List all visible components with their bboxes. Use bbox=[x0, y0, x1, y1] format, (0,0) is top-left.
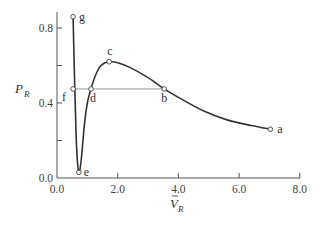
point-f-marker bbox=[71, 87, 76, 92]
y-ticks: 0.00.40.8 bbox=[39, 22, 62, 184]
point-f-label: f bbox=[62, 90, 66, 104]
x-axis-label-sub: R bbox=[177, 204, 184, 214]
y-axis-label: P R bbox=[14, 81, 30, 99]
point-a-marker bbox=[268, 127, 273, 132]
point-e-label: e bbox=[84, 165, 89, 179]
x-tick-label: 2.0 bbox=[111, 183, 126, 195]
x-tick-label: 0.0 bbox=[50, 183, 65, 195]
point-c-label: c bbox=[107, 44, 112, 58]
point-b-label: b bbox=[161, 91, 167, 105]
point-c-marker bbox=[107, 59, 112, 64]
x-tick-label: 4.0 bbox=[171, 183, 186, 195]
y-tick-label: 0.0 bbox=[39, 172, 54, 184]
point-a-label: a bbox=[277, 122, 283, 136]
point-e-marker bbox=[77, 170, 82, 175]
point-g-marker bbox=[71, 14, 76, 19]
point-g-label: g bbox=[79, 10, 85, 24]
x-axis-label: V R bbox=[170, 196, 184, 214]
y-tick-label: 0.4 bbox=[39, 97, 54, 109]
point-d-label: d bbox=[90, 91, 96, 105]
isotherm-curve bbox=[73, 17, 270, 173]
y-axis-label-main: P bbox=[14, 81, 23, 96]
x-tick-label: 8.0 bbox=[293, 183, 308, 195]
y-axis-label-sub: R bbox=[23, 89, 30, 99]
y-tick-label: 0.8 bbox=[39, 22, 54, 34]
pv-isotherm-chart: 0.02.04.06.08.0 0.00.40.8 abcdefg P R V … bbox=[0, 0, 325, 225]
x-tick-label: 6.0 bbox=[232, 183, 247, 195]
